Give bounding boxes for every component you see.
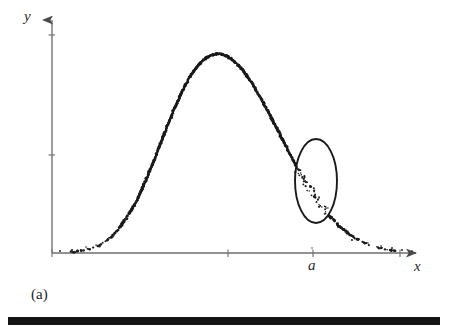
figure-page: y x a (a) (0, 0, 450, 335)
scatter-point (303, 180, 305, 182)
scatter-point (365, 242, 367, 244)
scatter-point (311, 247, 312, 248)
axes-group (49, 20, 417, 257)
highlight-ellipse-annotation (295, 139, 337, 223)
scatter-point (309, 186, 311, 188)
scatter-point (386, 249, 388, 251)
scatter-point (311, 194, 313, 196)
scatter-point (318, 197, 320, 199)
scatter-point (351, 239, 353, 241)
scatter-point (314, 196, 316, 198)
scatter-point (378, 247, 380, 249)
scatter-point (325, 206, 327, 208)
scatter-point (95, 244, 97, 246)
scatter-point-group (59, 52, 413, 253)
scatter-point (101, 243, 103, 245)
scatter-point (302, 184, 304, 186)
scatter-point (391, 247, 393, 249)
scatter-point (380, 245, 382, 247)
scatter-point (297, 169, 299, 171)
scatter-point (314, 194, 316, 196)
scatter-point (309, 190, 310, 191)
scatter-point (300, 169, 302, 171)
scatter-point (303, 175, 305, 177)
scatter-point (411, 250, 413, 252)
scatter-point (321, 206, 323, 208)
scatter-point (71, 249, 73, 251)
plot-canvas (0, 0, 450, 335)
scatter-point (368, 244, 370, 246)
scatter-point (76, 249, 79, 252)
scatter-point (88, 248, 91, 251)
scatter-point (390, 249, 392, 251)
bottom-rule-divider (8, 317, 440, 325)
subfigure-caption: (a) (31, 287, 48, 302)
scatter-point (83, 249, 85, 251)
scatter-point (318, 204, 319, 205)
scatter-point (325, 211, 326, 212)
scatter-point (315, 201, 317, 203)
scatter-point (301, 177, 303, 179)
scatter-point (324, 208, 326, 210)
scatter-point (306, 190, 308, 192)
scatter-point (384, 248, 386, 250)
scatter-point (298, 174, 300, 176)
scatter-point (102, 242, 104, 244)
scatter-point (381, 247, 383, 249)
x-axis-tick-label-a: a (308, 258, 316, 273)
scatter-point (358, 238, 360, 240)
scatter-point (401, 249, 403, 251)
scatter-point (394, 249, 397, 252)
scatter-point (305, 185, 307, 187)
scatter-point (324, 213, 326, 215)
scatter-point (85, 246, 87, 248)
scatter-point (300, 172, 302, 174)
scatter-point (313, 190, 315, 192)
scatter-point (305, 181, 307, 183)
scatter-point (59, 250, 61, 252)
scatter-point (317, 199, 319, 201)
y-axis-label: y (24, 9, 31, 24)
scatter-point (313, 187, 315, 189)
scatter-point (303, 178, 305, 180)
scatter-point (117, 229, 119, 231)
scatter-point (298, 173, 300, 175)
x-axis-label: x (414, 259, 421, 274)
scatter-point (367, 242, 368, 243)
scatter-point (319, 205, 321, 207)
scatter-point (326, 207, 327, 208)
scatter-point (354, 238, 356, 240)
scatter-point (333, 220, 336, 223)
scatter-point (327, 207, 328, 208)
scatter-point (92, 246, 94, 248)
scatter-point (301, 174, 302, 175)
